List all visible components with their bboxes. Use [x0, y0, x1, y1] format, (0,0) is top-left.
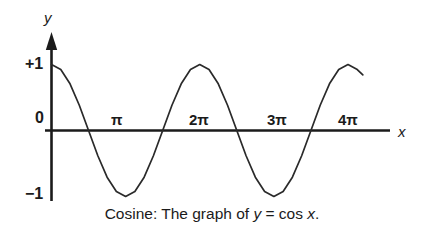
plot-area	[0, 0, 424, 234]
y-tick-label-minus-one: −1	[25, 186, 43, 202]
caption-equation: = cos	[261, 205, 307, 222]
y-tick-label-zero: 0	[35, 110, 44, 126]
cosine-graph-figure: y x +1 0 −1 π 2π 3π 4π Cosine: The graph…	[0, 0, 424, 234]
x-axis-label: x	[398, 124, 406, 139]
x-tick-label-2pi: 2π	[189, 112, 209, 127]
caption-variable-x: x	[307, 205, 315, 222]
x-tick-label-4pi: 4π	[338, 112, 358, 127]
caption-period: .	[315, 205, 319, 222]
x-tick-label-3pi: 3π	[267, 112, 287, 127]
x-tick-label-pi: π	[111, 112, 122, 127]
caption-prefix: Cosine: The graph of	[105, 205, 254, 222]
figure-caption: Cosine: The graph of y = cos x.	[0, 205, 424, 223]
y-tick-label-plus-one: +1	[25, 56, 43, 72]
y-axis-arrowhead-icon	[46, 32, 57, 50]
y-axis-label: y	[44, 10, 52, 25]
